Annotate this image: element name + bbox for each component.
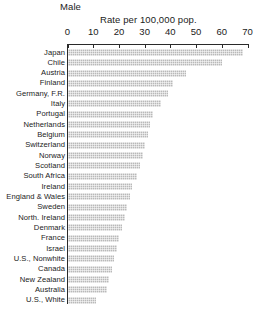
bar-category-label: England & Wales xyxy=(6,192,65,202)
bar-row: Denmark xyxy=(0,223,257,233)
bar-category-label: Sweden xyxy=(37,202,65,212)
bar xyxy=(68,70,186,77)
bar-row: South Africa xyxy=(0,171,257,181)
bar xyxy=(68,142,145,149)
bar-category-label: France xyxy=(41,233,65,243)
bar xyxy=(68,90,168,97)
bar xyxy=(68,152,143,159)
bar-row: Canada xyxy=(0,264,257,274)
bar-category-label: Switzerland xyxy=(25,140,65,150)
bar xyxy=(68,183,132,190)
bar-category-label: Ireland xyxy=(41,182,65,192)
bar xyxy=(68,224,122,231)
bar-category-label: U.S., White xyxy=(26,295,65,305)
bar xyxy=(68,59,222,66)
bar xyxy=(68,121,150,128)
bar xyxy=(68,131,148,138)
bar-category-label: Chile xyxy=(47,58,65,68)
bar-row: Israel xyxy=(0,244,257,254)
bar-category-label: Canada xyxy=(38,264,65,274)
bar-category-label: New Zealand xyxy=(20,275,65,285)
bar-row: Japan xyxy=(0,48,257,58)
bar-row: Finland xyxy=(0,78,257,88)
bar xyxy=(68,276,109,283)
bar xyxy=(68,173,137,180)
bar-category-label: Netherlands xyxy=(24,120,66,130)
bar-row: Austria xyxy=(0,68,257,78)
bar xyxy=(68,297,96,304)
bar-row: U.S., White xyxy=(0,295,257,305)
bar xyxy=(68,111,153,118)
bar-category-label: Italy xyxy=(51,99,65,109)
bar xyxy=(68,162,140,169)
bar-category-label: Denmark xyxy=(34,223,65,233)
bar xyxy=(68,80,173,87)
bar-rows: JapanChileAustriaFinlandGermany, F.R.Ita… xyxy=(0,0,257,310)
bar-row: Italy xyxy=(0,99,257,109)
bar xyxy=(68,214,125,221)
bar-category-label: U.S., Nonwhite xyxy=(14,254,65,264)
bar-row: Australia xyxy=(0,285,257,295)
bar-category-label: Austria xyxy=(41,68,65,78)
bar xyxy=(68,245,117,252)
bar xyxy=(68,255,114,262)
bar xyxy=(68,193,130,200)
bar-row: England & Wales xyxy=(0,192,257,202)
bar-row: Switzerland xyxy=(0,140,257,150)
bar-row: Portugal xyxy=(0,109,257,119)
bar-category-label: Finland xyxy=(40,78,65,88)
bar xyxy=(68,266,112,273)
bar-row: Belgium xyxy=(0,130,257,140)
bar-row: Sweden xyxy=(0,202,257,212)
bar xyxy=(68,100,161,107)
bar-category-label: North. Ireland xyxy=(18,213,65,223)
bar-category-label: Japan xyxy=(44,48,65,58)
bar-category-label: Israel xyxy=(46,244,65,254)
bar-category-label: Belgium xyxy=(37,130,65,140)
bar-row: U.S., Nonwhite xyxy=(0,254,257,264)
bar-row: Ireland xyxy=(0,182,257,192)
bar-row: Netherlands xyxy=(0,120,257,130)
bar-row: Scotland xyxy=(0,161,257,171)
bar-row: North. Ireland xyxy=(0,213,257,223)
bar xyxy=(68,235,119,242)
bar-category-label: Australia xyxy=(35,285,65,295)
bar xyxy=(68,286,107,293)
bar-row: France xyxy=(0,233,257,243)
bar-row: Norway xyxy=(0,151,257,161)
bar-category-label: Scotland xyxy=(35,161,65,171)
bar-category-label: Germany, F.R. xyxy=(16,89,65,99)
bar-category-label: Portugal xyxy=(36,109,65,119)
bar-category-label: Norway xyxy=(39,151,65,161)
bar xyxy=(68,49,243,56)
chart-root: Male Rate per 100,000 pop. 0102030405060… xyxy=(0,0,257,310)
bar xyxy=(68,204,127,211)
bar-category-label: South Africa xyxy=(23,171,65,181)
bar-row: Chile xyxy=(0,58,257,68)
bar-row: Germany, F.R. xyxy=(0,89,257,99)
bar-row: New Zealand xyxy=(0,275,257,285)
